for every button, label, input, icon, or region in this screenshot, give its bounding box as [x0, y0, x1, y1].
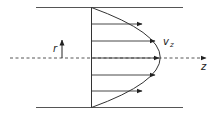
- radial-label: r: [53, 43, 58, 54]
- velocity-parabola-curve: [92, 8, 161, 108]
- velocity-label: vz: [163, 36, 174, 49]
- velocity-label-subscript: z: [169, 41, 174, 49]
- velocity-profile-diagram: r vz z: [0, 0, 217, 113]
- axis-label: z: [200, 61, 207, 72]
